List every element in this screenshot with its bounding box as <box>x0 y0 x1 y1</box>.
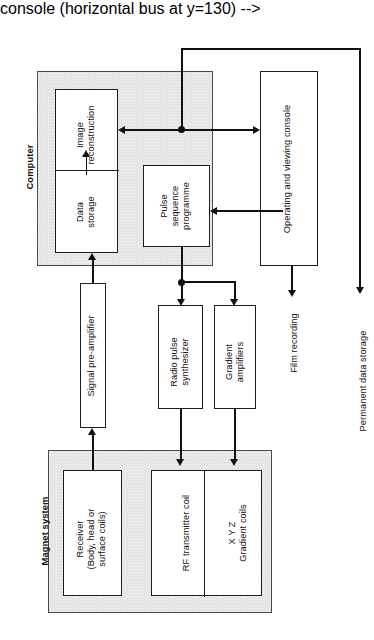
connector-console-left-stub <box>281 210 283 212</box>
box-gradient-amplifiers <box>214 305 256 409</box>
mri-block-diagram: Computer Magnet system Imagereconstructi… <box>0 0 374 640</box>
box-pulse-sequence-programme <box>143 165 210 247</box>
connector-console-to-film-recording <box>291 266 293 292</box>
box-receiver <box>63 470 122 596</box>
arrowhead-xyz-gradient-coils-in <box>230 459 238 466</box>
connector-pulse-split-rail <box>181 281 236 283</box>
arrowhead-signal-preamp-in <box>88 428 96 435</box>
connector-reconstruction-bus <box>125 129 183 131</box>
arrowhead-data-storage-in <box>88 253 96 260</box>
connector-gradient-amps-to-coils <box>234 409 236 461</box>
storage-reconstruction-divider <box>56 170 119 171</box>
arrowhead-film-recording <box>288 290 296 297</box>
arrowhead-permanent-data-storage <box>356 287 364 294</box>
box-radio-pulse-synthesizer <box>158 305 203 409</box>
connector-top-rail <box>181 48 361 50</box>
coils-divider <box>204 471 205 597</box>
connector-bus-to-console <box>181 129 253 131</box>
arrowhead-pulse-sequence-in <box>210 207 217 215</box>
connector-split-to-gradient-amplifiers <box>234 281 236 301</box>
connector-reconstruction-arrowhead <box>118 126 125 134</box>
connector-bus-up-to-top-rail <box>181 48 183 130</box>
box-signal-pre-amplifier <box>80 283 106 428</box>
connector-radio-pulse-to-rf-coil <box>180 409 182 461</box>
box-coils-group <box>151 470 262 596</box>
storage-to-reconstruction-arrowhead <box>82 150 90 157</box>
box-operating-viewing-console <box>260 71 318 266</box>
connector-console-to-pulse-sequence <box>217 210 283 212</box>
connector-receiver-to-preamp <box>92 434 94 470</box>
connector-console-in-arrowhead <box>253 126 260 134</box>
arrowhead-radio-pulse-synthesizer-in <box>177 299 185 306</box>
connector-right-rail-down <box>359 48 361 288</box>
connector-preamp-to-data-storage <box>92 259 94 283</box>
label-permanent-data-storage: Permanent data storage <box>358 316 372 446</box>
connector-split-to-radio-pulse <box>181 281 183 301</box>
storage-to-reconstruction-line <box>86 155 87 175</box>
region-computer-label: Computer <box>24 132 38 202</box>
arrowhead-rf-transmitter-coil-in <box>176 459 184 466</box>
arrowhead-gradient-amplifiers-in <box>230 299 238 306</box>
label-film-recording: Film recording <box>289 303 303 383</box>
